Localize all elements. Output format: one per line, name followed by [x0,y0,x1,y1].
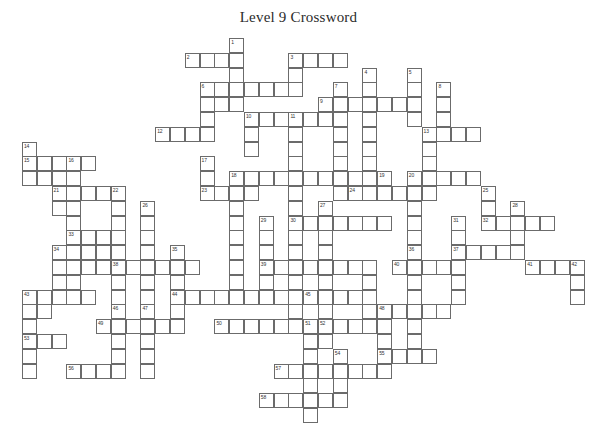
crossword-cell[interactable] [348,319,363,334]
crossword-cell[interactable] [407,260,422,275]
crossword-cell-numbered-51[interactable]: 51 [303,319,318,334]
crossword-cell[interactable] [170,260,185,275]
crossword-cell[interactable] [362,275,377,290]
crossword-cell[interactable] [37,304,52,319]
crossword-cell[interactable] [52,334,67,349]
crossword-cell[interactable] [259,290,274,305]
crossword-cell[interactable] [510,230,525,245]
crossword-cell[interactable] [481,201,496,216]
crossword-cell[interactable] [303,334,318,349]
crossword-cell[interactable] [259,171,274,186]
crossword-cell[interactable] [81,156,96,171]
crossword-cell-numbered-20[interactable]: 20 [407,171,422,186]
crossword-cell-numbered-50[interactable]: 50 [214,319,229,334]
crossword-cell-numbered-53[interactable]: 53 [22,334,37,349]
crossword-cell[interactable] [510,245,525,260]
crossword-cell[interactable] [362,142,377,157]
crossword-cell[interactable] [318,112,333,127]
crossword-cell[interactable] [244,319,259,334]
crossword-cell[interactable] [407,319,422,334]
crossword-cell[interactable] [333,142,348,157]
crossword-cell[interactable] [407,112,422,127]
crossword-cell[interactable] [52,171,67,186]
crossword-cell[interactable] [451,275,466,290]
crossword-cell[interactable] [52,275,67,290]
crossword-cell[interactable] [362,216,377,231]
crossword-cell[interactable] [170,275,185,290]
crossword-cell-numbered-15[interactable]: 15 [22,156,37,171]
crossword-cell[interactable] [377,97,392,112]
crossword-cell[interactable] [303,171,318,186]
crossword-cell[interactable] [229,216,244,231]
crossword-cell[interactable] [274,112,289,127]
crossword-cell[interactable] [259,319,274,334]
crossword-cell[interactable] [140,349,155,364]
crossword-cell[interactable] [200,97,215,112]
crossword-cell[interactable] [111,290,126,305]
crossword-cell-numbered-18[interactable]: 18 [229,171,244,186]
crossword-cell[interactable] [111,349,126,364]
crossword-cell[interactable] [22,349,37,364]
crossword-cell[interactable] [466,245,481,260]
crossword-cell-numbered-44[interactable]: 44 [170,290,185,305]
crossword-cell[interactable] [259,112,274,127]
crossword-cell[interactable] [66,186,81,201]
crossword-cell[interactable] [362,171,377,186]
crossword-cell[interactable] [407,275,422,290]
crossword-cell[interactable] [288,245,303,260]
crossword-cell[interactable] [140,290,155,305]
crossword-cell[interactable] [333,156,348,171]
crossword-cell[interactable] [170,304,185,319]
crossword-cell[interactable] [525,216,540,231]
crossword-cell[interactable] [229,275,244,290]
crossword-cell[interactable] [200,127,215,142]
crossword-cell[interactable] [362,364,377,379]
crossword-cell[interactable] [362,319,377,334]
crossword-cell[interactable] [229,186,244,201]
crossword-cell[interactable] [407,334,422,349]
crossword-cell[interactable] [140,275,155,290]
crossword-cell[interactable] [111,275,126,290]
crossword-cell[interactable] [52,201,67,216]
crossword-cell[interactable] [259,82,274,97]
crossword-cell-numbered-47[interactable]: 47 [140,304,155,319]
crossword-cell[interactable] [288,275,303,290]
crossword-cell[interactable] [348,216,363,231]
crossword-cell-numbered-4[interactable]: 4 [362,68,377,83]
crossword-cell[interactable] [140,319,155,334]
crossword-cell[interactable] [348,97,363,112]
crossword-cell[interactable] [96,230,111,245]
crossword-cell[interactable] [318,53,333,68]
crossword-cell[interactable] [37,156,52,171]
crossword-cell[interactable] [200,171,215,186]
crossword-cell[interactable] [111,230,126,245]
crossword-cell[interactable] [66,260,81,275]
crossword-cell-numbered-23[interactable]: 23 [200,186,215,201]
crossword-cell-numbered-42[interactable]: 42 [570,260,585,275]
crossword-cell[interactable] [288,142,303,157]
crossword-cell-numbered-57[interactable]: 57 [274,364,289,379]
crossword-cell[interactable] [303,378,318,393]
crossword-cell-numbered-10[interactable]: 10 [244,112,259,127]
crossword-cell[interactable] [200,112,215,127]
crossword-cell-numbered-43[interactable]: 43 [22,290,37,305]
crossword-cell[interactable] [318,171,333,186]
crossword-cell[interactable] [274,290,289,305]
crossword-cell-numbered-25[interactable]: 25 [481,186,496,201]
crossword-cell-numbered-28[interactable]: 28 [510,201,525,216]
crossword-cell[interactable] [333,378,348,393]
crossword-cell[interactable] [333,364,348,379]
crossword-cell-numbered-22[interactable]: 22 [111,186,126,201]
crossword-cell-numbered-3[interactable]: 3 [288,53,303,68]
crossword-cell[interactable] [555,260,570,275]
crossword-cell-numbered-24[interactable]: 24 [348,186,363,201]
crossword-cell-numbered-36[interactable]: 36 [407,245,422,260]
crossword-cell[interactable] [229,290,244,305]
crossword-cell[interactable] [422,186,437,201]
crossword-cell-numbered-41[interactable]: 41 [525,260,540,275]
crossword-cell[interactable] [66,171,81,186]
crossword-cell[interactable] [66,290,81,305]
crossword-cell[interactable] [422,142,437,157]
crossword-cell[interactable] [407,216,422,231]
crossword-cell[interactable] [259,230,274,245]
